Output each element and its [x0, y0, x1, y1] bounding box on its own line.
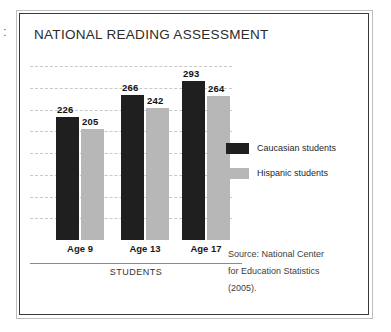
legend-item[interactable]: Hispanic students	[226, 167, 366, 179]
chart-legend: Caucasian studentsHispanic students	[226, 142, 366, 192]
chart-title: NATIONAL READING ASSESSMENT	[34, 27, 269, 42]
bar-hispanic-age-13[interactable]	[146, 108, 169, 240]
x-axis-rule	[30, 263, 242, 264]
x-axis-tick-labels: Age 9Age 13Age 17	[30, 243, 232, 257]
x-axis-title: STUDENTS	[30, 267, 242, 277]
legend-item[interactable]: Caucasian students	[226, 142, 366, 154]
figure-frame: NATIONAL READING ASSESSMENT 226205266242…	[16, 10, 373, 319]
bar-value-label: 264	[208, 83, 224, 94]
bar-value-label: 293	[183, 68, 199, 79]
legend-swatch-hispanic	[226, 168, 249, 179]
bar-value-label: 266	[122, 82, 138, 93]
bar-caucasian-age-17[interactable]	[182, 81, 205, 240]
bar-value-label: 205	[82, 116, 98, 127]
scan-artifact-mark: :	[3, 26, 6, 37]
source-note-line: (2005).	[228, 280, 368, 297]
legend-item-label: Caucasian students	[257, 143, 336, 153]
bar-group-age-17: 293264	[182, 66, 230, 240]
bar-caucasian-age-13[interactable]	[121, 95, 144, 240]
x-tick-age-9: Age 9	[67, 243, 93, 254]
source-note-line: for Education Statistics	[228, 263, 368, 280]
legend-item-label: Hispanic students	[257, 168, 328, 178]
chart-plot-area: 226205266242293264	[30, 66, 232, 240]
figure-frame-inner-border: NATIONAL READING ASSESSMENT 226205266242…	[19, 13, 369, 315]
chart-bars-layer: 226205266242293264	[30, 66, 232, 240]
bar-group-age-9: 226205	[56, 66, 104, 240]
bar-caucasian-age-9[interactable]	[56, 117, 79, 240]
bar-group-age-13: 266242	[121, 66, 169, 240]
source-note: Source: National Centerfor Education Sta…	[228, 246, 368, 297]
x-tick-age-13: Age 13	[129, 243, 160, 254]
legend-swatch-caucasian	[226, 143, 249, 154]
x-tick-age-17: Age 17	[190, 243, 221, 254]
source-note-line: Source: National Center	[228, 246, 368, 263]
bar-hispanic-age-9[interactable]	[81, 129, 104, 240]
bar-value-label: 226	[57, 104, 73, 115]
bar-value-label: 242	[147, 95, 163, 106]
